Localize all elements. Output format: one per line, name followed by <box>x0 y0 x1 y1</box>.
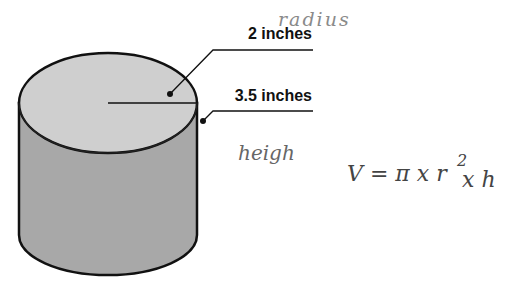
cylinder-diagram: 2 inches 3.5 inches radius heigh V = π x… <box>0 0 517 290</box>
handwritten-radius: radius <box>278 8 351 30</box>
handwritten-formula-lhs: V = π x r <box>347 161 448 186</box>
handwritten-height: heigh <box>238 141 295 165</box>
handwritten-formula-rhs: x h <box>462 167 496 192</box>
height-label: 3.5 inches <box>235 87 312 104</box>
height-callout-line <box>203 111 313 121</box>
